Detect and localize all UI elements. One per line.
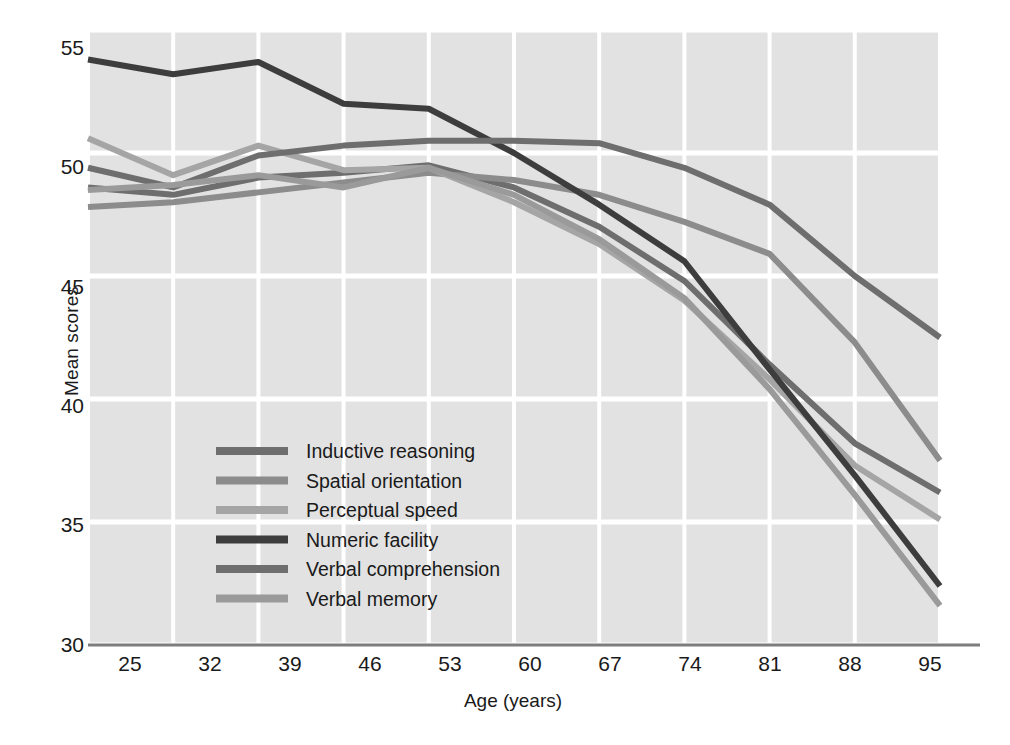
x-tick-53: 53 <box>420 652 480 676</box>
x-tick-81: 81 <box>740 652 800 676</box>
legend-swatch-verbal-comprehension <box>216 565 288 573</box>
legend-label-verbal-comprehension: Verbal comprehension <box>306 558 500 580</box>
plot-area: Inductive reasoningSpatial orientationPe… <box>0 0 1010 745</box>
legend-label-verbal-memory: Verbal memory <box>306 588 437 610</box>
x-tick-25: 25 <box>100 652 160 676</box>
x-tick-46: 46 <box>340 652 400 676</box>
y-tick-35: 35 <box>32 513 84 537</box>
legend-label-spatial-orientation: Spatial orientation <box>306 470 462 492</box>
legend-swatch-numeric-facility <box>216 536 288 544</box>
y-tick-45: 45 <box>32 275 84 299</box>
y-tick-30: 30 <box>32 633 84 657</box>
legend-swatch-verbal-memory <box>216 595 288 603</box>
x-tick-88: 88 <box>820 652 880 676</box>
x-axis-label: Age (years) <box>88 690 938 712</box>
legend-label-perceptual-speed: Perceptual speed <box>306 499 458 521</box>
chart-figure: Mean scores Age (years) 55 50 45 40 35 3… <box>0 0 1010 745</box>
y-tick-40: 40 <box>32 394 84 418</box>
x-tick-60: 60 <box>500 652 560 676</box>
legend-label-inductive-reasoning: Inductive reasoning <box>306 440 475 462</box>
legend-swatch-spatial-orientation <box>216 477 288 485</box>
x-tick-39: 39 <box>260 652 320 676</box>
y-tick-50: 50 <box>32 155 84 179</box>
x-tick-74: 74 <box>660 652 720 676</box>
x-tick-95: 95 <box>900 652 960 676</box>
x-tick-32: 32 <box>180 652 240 676</box>
x-tick-67: 67 <box>580 652 640 676</box>
legend-label-numeric-facility: Numeric facility <box>306 529 438 551</box>
legend-swatch-perceptual-speed <box>216 506 288 514</box>
legend-swatch-inductive-reasoning <box>216 447 288 455</box>
y-tick-55: 55 <box>32 36 84 60</box>
